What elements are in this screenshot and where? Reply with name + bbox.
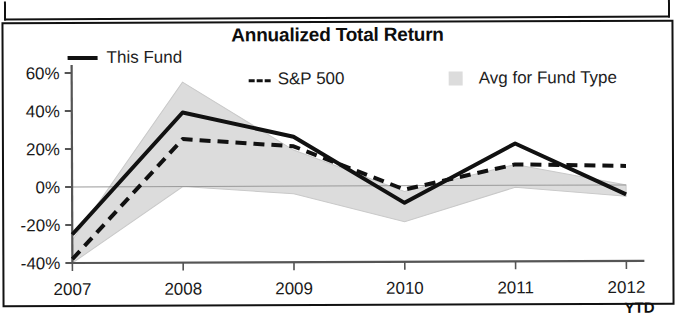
annualized-total-return-chart-panel: Annualized Total Return This Fund S&P 50… bbox=[1, 20, 674, 308]
chart-svg: 60%40%20%0%-20%-40% 20072008200920102011… bbox=[3, 22, 672, 306]
svg-text:-20%: -20% bbox=[21, 216, 61, 235]
y-axis-labels: 60%40%20%0%-20%-40% bbox=[20, 64, 60, 273]
svg-text:2012: 2012 bbox=[608, 278, 646, 297]
svg-text:2011: 2011 bbox=[497, 278, 534, 297]
svg-text:2010: 2010 bbox=[386, 279, 424, 298]
x-axis-labels: 200720082009201020112012 bbox=[54, 278, 646, 299]
panel-above-edge bbox=[4, 0, 670, 20]
svg-text:2008: 2008 bbox=[164, 280, 202, 299]
svg-text:-40%: -40% bbox=[21, 254, 61, 273]
svg-text:2009: 2009 bbox=[275, 279, 313, 298]
svg-text:2007: 2007 bbox=[54, 280, 92, 299]
svg-text:0%: 0% bbox=[35, 178, 60, 197]
svg-text:40%: 40% bbox=[26, 102, 60, 121]
svg-text:20%: 20% bbox=[26, 140, 60, 159]
svg-text:60%: 60% bbox=[26, 64, 60, 83]
plot-area: 60%40%20%0%-20%-40% 20072008200920102011… bbox=[3, 22, 672, 306]
ytd-note: YTD bbox=[625, 299, 655, 315]
